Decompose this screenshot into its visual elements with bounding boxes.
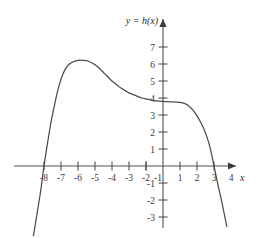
y-tick-label: 4 [150,94,155,104]
y-axis-arrow-icon [159,19,166,27]
y-tick-label: 7 [150,43,155,53]
x-tick-label: -4 [108,173,116,183]
x-tick-label: -8 [40,173,48,183]
y-tick-label: 3 [150,111,155,121]
x-axis-label: x [239,172,245,183]
x-tick-label: 2 [195,173,200,183]
y-tick-label: 2 [150,128,155,138]
y-tick-label: 5 [150,77,155,87]
curve-label: y = h(x) [125,15,159,27]
x-tick-label: -6 [74,173,82,183]
x-tick-label: -1 [154,173,162,183]
y-tick-label: -3 [147,213,155,223]
function-graph-figure: -8 -7 -6 -5 -4 -3 -2 -1 1 2 3 4 7 6 5 4 … [0,0,267,238]
function-curve [33,60,226,236]
x-tick-label: 1 [178,173,183,183]
y-tick-label: 6 [150,60,155,70]
x-axis-arrow-icon [228,162,236,169]
y-tick-label: 1 [150,145,155,155]
y-tick-label: -1 [147,179,155,189]
x-tick-label: 4 [229,173,234,183]
plot-area: -8 -7 -6 -5 -4 -3 -2 -1 1 2 3 4 7 6 5 4 … [0,0,267,238]
y-tick-label: -2 [147,196,155,206]
x-tick-label: -3 [125,173,133,183]
x-tick-label: -7 [57,173,65,183]
x-tick-label: -5 [91,173,99,183]
